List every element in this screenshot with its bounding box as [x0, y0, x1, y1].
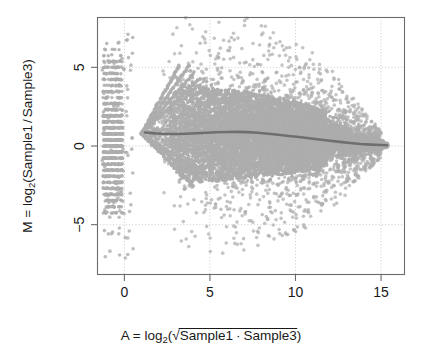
- data-point: [309, 82, 313, 86]
- data-point: [190, 158, 193, 161]
- data-point: [238, 61, 242, 65]
- data-point: [191, 123, 194, 126]
- data-point: [102, 54, 105, 57]
- data-point: [310, 91, 314, 95]
- data-point: [104, 120, 107, 123]
- data-point: [276, 169, 279, 172]
- data-point: [200, 200, 204, 204]
- data-point: [280, 191, 284, 195]
- data-point: [224, 152, 227, 155]
- data-point: [337, 163, 341, 167]
- data-point: [206, 201, 210, 205]
- data-point: [281, 127, 284, 130]
- data-point: [371, 157, 375, 161]
- data-point: [117, 90, 120, 93]
- data-point: [306, 80, 310, 84]
- data-point: [207, 49, 211, 53]
- data-point: [272, 46, 276, 50]
- data-point: [237, 160, 240, 163]
- data-point: [342, 181, 346, 185]
- data-point: [118, 209, 122, 213]
- data-point: [198, 41, 202, 45]
- data-point: [308, 173, 312, 177]
- data-point: [312, 63, 316, 67]
- data-point: [122, 68, 126, 72]
- data-point: [318, 152, 321, 155]
- data-point: [210, 198, 214, 202]
- data-point: [178, 113, 181, 116]
- data-point: [241, 155, 244, 158]
- data-point: [108, 132, 112, 136]
- data-point: [116, 66, 119, 69]
- data-point: [179, 195, 183, 199]
- data-point: [320, 169, 324, 173]
- data-point: [101, 68, 105, 72]
- data-point: [260, 213, 264, 217]
- data-point: [208, 111, 211, 114]
- data-point: [197, 104, 200, 107]
- data-point: [115, 211, 118, 214]
- data-point: [110, 108, 113, 111]
- data-point: [212, 36, 216, 40]
- data-point: [344, 129, 347, 132]
- data-point: [268, 201, 272, 205]
- data-point: [261, 71, 265, 75]
- data-point: [297, 66, 301, 70]
- data-point: [121, 147, 125, 151]
- data-point: [335, 170, 339, 174]
- y-tick-label: 5: [71, 63, 87, 71]
- data-point: [336, 180, 340, 184]
- data-point: [239, 181, 243, 185]
- data-point: [302, 139, 305, 142]
- data-point: [106, 186, 109, 189]
- data-point: [183, 187, 187, 191]
- data-point: [174, 138, 177, 141]
- data-point: [175, 26, 179, 30]
- data-point: [196, 93, 199, 96]
- data-point: [205, 86, 208, 89]
- data-point: [189, 70, 193, 74]
- data-point: [338, 118, 341, 121]
- data-point: [202, 115, 205, 118]
- data-point: [289, 209, 293, 213]
- data-point: [321, 194, 325, 198]
- data-point: [198, 134, 201, 137]
- data-point: [275, 192, 279, 196]
- data-point: [291, 144, 294, 147]
- data-point: [107, 54, 110, 57]
- data-point: [242, 152, 245, 155]
- data-point: [128, 191, 132, 195]
- data-point: [102, 92, 106, 96]
- data-point: [217, 56, 221, 60]
- x-tick-label: 5: [206, 284, 214, 300]
- data-point: [240, 214, 244, 218]
- data-point: [288, 46, 292, 50]
- data-point: [120, 102, 123, 105]
- ylabel-slash: /: [20, 119, 35, 123]
- data-point: [350, 120, 354, 124]
- data-point: [214, 92, 217, 95]
- data-point: [301, 46, 305, 50]
- data-point: [355, 148, 358, 151]
- data-point: [102, 129, 106, 133]
- data-point: [192, 70, 196, 74]
- ylabel-denominator: Sample3: [20, 64, 35, 117]
- data-point: [177, 149, 180, 152]
- data-point: [191, 60, 195, 64]
- data-point: [331, 70, 335, 74]
- data-point: [103, 102, 106, 105]
- data-point: [278, 99, 281, 102]
- data-point: [118, 205, 121, 208]
- data-point: [242, 237, 246, 241]
- data-point: [334, 191, 338, 195]
- data-point: [327, 105, 331, 109]
- data-point: [284, 166, 287, 169]
- data-point: [168, 128, 171, 131]
- data-point: [356, 102, 360, 106]
- data-point: [307, 76, 311, 80]
- data-point: [129, 203, 133, 207]
- data-point: [178, 204, 182, 208]
- data-point: [235, 121, 238, 124]
- data-point: [271, 223, 275, 227]
- data-point: [374, 128, 378, 132]
